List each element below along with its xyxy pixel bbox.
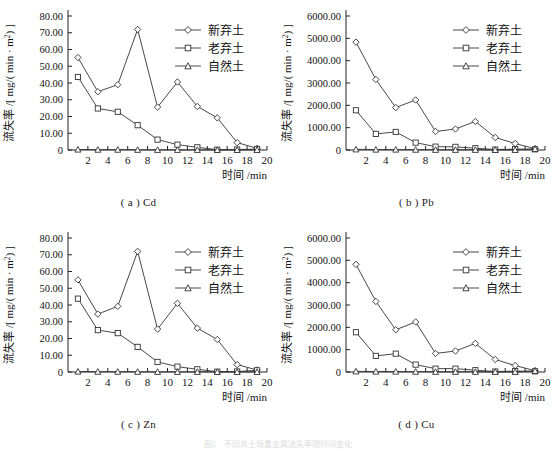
series-1 [353,39,539,152]
y-tick-label: 30.00 [39,94,63,105]
x-tick-label: 6 [403,154,409,166]
marker-diamond [353,39,359,45]
legend-label-2: 老弃土 [208,263,244,278]
y-axis-title-prefix: 流失率 /[ mg/( min · m [2,260,16,364]
figure-note: 图2 不同弃土场重金属流失率随时间变化 [0,438,555,449]
y-tick-label: 1000.00 [307,122,341,133]
legend-label-1: 新弃土 [486,245,522,260]
x-tick-label: 18 [520,376,532,388]
x-tick-label: 16 [222,154,234,166]
x-tick-label: 20 [262,376,274,388]
x-tick-label: 20 [540,154,552,166]
x-tick-label: 10 [440,154,452,166]
y-tick-label: 60.00 [39,44,63,55]
y-tick-label: 0 [336,367,341,378]
y-axis-title: 流失率 /[ mg/( min · m2) ] [2,24,16,141]
marker-square [155,359,160,364]
x-tick-label: 18 [242,154,254,166]
marker-diamond [432,350,438,356]
figure-root: 010.0020.0030.0040.0050.0060.0070.0080.0… [0,0,555,451]
marker-diamond [185,249,192,256]
y-axis-title-text: 流失率 /[ mg/( min · m2) ] [2,24,16,141]
series-2 [75,296,259,374]
marker-diamond [373,298,379,304]
y-tick-label: 0 [58,145,63,156]
x-tick-label: 14 [480,376,492,388]
series-1 [353,261,539,374]
legend-label-3: 自然土 [486,281,522,296]
y-tick-label: 0 [336,145,341,156]
y-tick-label: 60.00 [39,266,63,277]
y-axis-title: 流失率 /[ mg/( min · m2) ] [280,24,294,141]
y-tick-label: 10.00 [39,350,63,361]
y-tick-label: 40.00 [39,78,63,89]
marker-diamond [393,327,399,333]
marker-diamond [134,26,140,32]
subplot-caption-cu: ( d ) Cu [278,418,555,430]
marker-diamond [115,81,121,87]
chart-panel-zn: 010.0020.0030.0040.0050.0060.0070.0080.0… [0,222,277,440]
legend-label-2: 老弃土 [486,263,522,278]
x-tick-label: 20 [262,154,274,166]
marker-square [75,74,80,79]
y-axis-title-suffix: ) ] [281,24,294,34]
legend-label-2: 老弃土 [486,41,522,56]
y-tick-label: 2000.00 [307,100,341,111]
x-tick-label: 8 [145,376,151,388]
marker-diamond [115,303,121,309]
marker-diamond [412,97,418,103]
x-tick-label: 6 [125,154,131,166]
y-tick-label: 4000.00 [307,277,341,288]
x-tick-label: 4 [105,376,111,388]
marker-diamond [463,27,470,34]
marker-square [373,353,378,358]
marker-diamond [452,348,458,354]
y-axis-title-text: 流失率 /[ mg/( min · m2) ] [280,246,294,363]
marker-diamond [512,362,518,368]
marker-diamond [353,261,359,267]
marker-square [115,109,120,114]
y-tick-label: 70.00 [39,27,63,38]
y-tick-label: 80.00 [39,233,63,244]
legend: 新弃土老弃土自然土 [175,23,244,74]
x-tick-label: 2 [363,154,369,166]
marker-diamond [95,311,101,317]
marker-diamond [393,104,399,110]
marker-diamond [185,27,192,34]
x-tick-label: 4 [383,154,389,166]
x-tick-label: 10 [440,376,452,388]
x-tick-label: 14 [202,376,214,388]
marker-diamond [452,126,458,132]
x-tick-label: 10 [162,154,174,166]
legend-label-3: 自然土 [208,59,244,74]
x-tick-label: 2 [363,376,369,388]
marker-square [135,123,140,128]
y-axis-title-prefix: 流失率 /[ mg/( min · m [280,260,294,364]
marker-diamond [412,319,418,325]
marker-square [75,296,80,301]
y-tick-label: 3000.00 [307,300,341,311]
x-tick-label: 14 [202,154,214,166]
marker-diamond [75,54,81,60]
marker-square [393,351,398,356]
subplot-caption-pb: ( b ) Pb [278,196,555,208]
x-axis-title: 时间 /min [500,391,545,403]
y-axis-title-text: 流失率 /[ mg/( min · m2) ] [280,24,294,141]
marker-diamond [463,249,470,256]
x-tick-label: 8 [423,376,429,388]
y-tick-label: 10.00 [39,128,63,139]
x-tick-label: 18 [242,376,254,388]
y-tick-label: 0 [58,367,63,378]
series-line-1 [356,42,535,149]
x-tick-label: 14 [480,154,492,166]
x-tick-label: 10 [162,376,174,388]
marker-square [413,362,418,367]
series-line-2 [78,299,257,372]
y-tick-label: 30.00 [39,316,63,327]
series-2 [75,74,259,152]
chart-panel-cu: 01000.002000.003000.004000.005000.006000… [278,222,555,440]
marker-square [115,331,120,336]
x-tick-label: 6 [403,376,409,388]
plot-area-cd: 010.0020.0030.0040.0050.0060.0070.0080.0… [0,0,277,196]
chart-panel-pb: 01000.002000.003000.004000.005000.006000… [278,0,555,218]
